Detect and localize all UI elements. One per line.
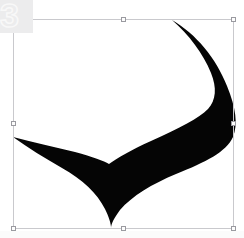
artwork-layer [0,0,244,238]
swoosh-checkmark-shape[interactable] [13,20,236,228]
canvas-bottom-gutter [0,231,244,238]
vector-canvas-stage: 3 [0,0,244,238]
artwork-svg [0,0,244,238]
